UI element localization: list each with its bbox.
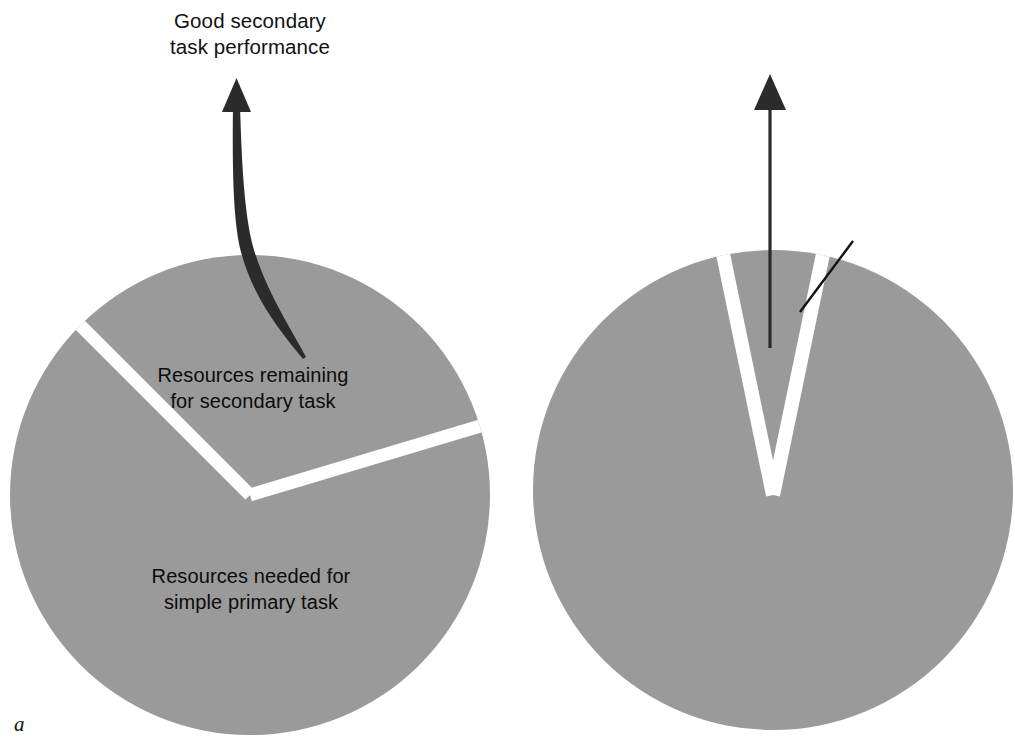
panel-b: Average secondary task performance Resou…	[508, 0, 1015, 750]
panel-a-heading: Good secondary task performance	[110, 8, 390, 60]
figure-container: Good secondary task performance Resource…	[0, 0, 1015, 750]
panel-a-letter: a	[14, 712, 25, 737]
panel-a-primary-slice-label: Resources needed for simple primary task	[112, 563, 390, 615]
panel-a: Good secondary task performance Resource…	[0, 0, 507, 750]
panel-a-secondary-slice-label: Resources remaining for secondary task	[122, 362, 384, 414]
